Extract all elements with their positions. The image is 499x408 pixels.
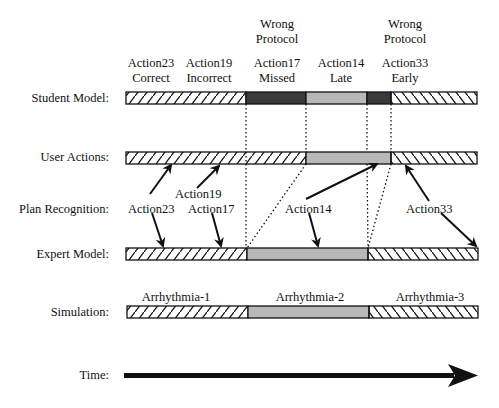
row-label-expert-model: Expert Model: — [36, 247, 109, 262]
top-label-action19: Action19 Incorrect — [186, 56, 233, 86]
row-label-time: Time: — [80, 368, 109, 383]
top-label-action17: Wrong Protocol Action17 Missed — [254, 17, 301, 86]
user-actions-bar — [126, 152, 477, 164]
simulation-label-arrhythmia-2: Arrhythmia-2 — [276, 290, 345, 305]
simulation-bar — [127, 306, 478, 318]
row-label-plan-recognition: Plan Recognition: — [19, 202, 109, 217]
row-label-student-model: Student Model: — [32, 91, 109, 106]
plan-label-action14: Action14 — [285, 202, 332, 217]
top-label-action14: Action14 Late — [318, 56, 365, 86]
time-arrow — [124, 364, 478, 387]
plan-label-action17: Action17 — [188, 202, 235, 217]
plan-label-action23: Action23 — [128, 202, 175, 217]
row-label-user-actions: User Actions: — [41, 150, 109, 165]
dotted-guides — [246, 104, 391, 248]
simulation-label-arrhythmia-3: Arrhythmia-3 — [396, 290, 465, 305]
top-label-action33: Wrong Protocol Action33 Early — [382, 17, 429, 86]
expert-model-bar — [126, 248, 478, 260]
plan-label-action33: Action33 — [406, 202, 453, 217]
simulation-label-arrhythmia-1: Arrhythmia-1 — [142, 290, 211, 305]
top-label-action23: Action23 Correct — [128, 56, 175, 86]
row-label-simulation: Simulation: — [51, 305, 109, 320]
plan-label-action19: Action19 — [175, 187, 222, 202]
student-model-bar — [126, 92, 477, 104]
